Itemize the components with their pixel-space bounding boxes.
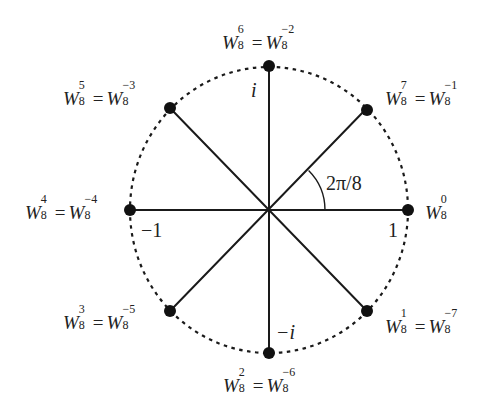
label-w5-base: W <box>63 88 79 109</box>
label-w2-eq-sup: −6 <box>282 366 295 378</box>
label-w4-equals: = <box>55 202 66 223</box>
label-w6-sup: 6 <box>238 23 244 35</box>
label-w7-equals: = <box>415 88 426 109</box>
label-w4-base: W <box>25 202 41 223</box>
label-w1-sub-2: 8 <box>444 323 450 335</box>
label-w3-base-2: W <box>107 312 123 333</box>
label-w3-equals: = <box>93 312 104 333</box>
label-w4: W48=W−48 <box>25 200 104 222</box>
angle-label: 2π/8 <box>326 173 362 193</box>
label-w0-sup: 0 <box>441 193 447 205</box>
label-w2-sup: 2 <box>239 366 245 378</box>
label-w1-sup: 1 <box>401 307 407 319</box>
label-w3-sub-2: 8 <box>122 319 128 331</box>
label-w7-base: W <box>385 88 401 109</box>
label-w1-base-2: W <box>429 316 445 337</box>
point-w0 <box>402 204 414 216</box>
label-w2-sub-2: 8 <box>282 382 288 394</box>
label-w6-base-2: W <box>266 32 282 53</box>
label-w3: W38=W−58 <box>63 310 142 332</box>
axis-label-i: i <box>251 80 257 100</box>
label-w7-base-2: W <box>429 88 445 109</box>
label-w1: W18=W−78 <box>385 314 464 336</box>
label-w6: W68=W−28 <box>222 30 301 52</box>
point-w2 <box>263 347 275 359</box>
label-w0-base: W <box>425 202 441 223</box>
label-w2-base: W <box>223 375 239 396</box>
label-w1-base: W <box>385 316 401 337</box>
label-w2-equals: = <box>253 375 264 396</box>
label-w7-sub: 8 <box>401 95 407 107</box>
label-w2-sub: 8 <box>239 382 245 394</box>
label-w6-eq-sup: −2 <box>281 23 294 35</box>
label-w6-sub-2: 8 <box>281 39 287 51</box>
label-w1-equals: = <box>415 316 426 337</box>
label-w4-sub-2: 8 <box>84 209 90 221</box>
label-w7-eq-sup: −1 <box>444 79 457 91</box>
axis-label-neg-one: −1 <box>141 220 162 240</box>
label-w1-sub: 8 <box>401 323 407 335</box>
label-w3-base: W <box>63 312 79 333</box>
axis-label-one: 1 <box>388 220 398 240</box>
point-w1 <box>361 305 373 317</box>
label-w4-sub: 8 <box>41 209 47 221</box>
label-w4-sup: 4 <box>41 193 47 205</box>
label-w2: W28=W−68 <box>223 373 302 395</box>
label-w7-sup: 7 <box>401 79 407 91</box>
label-w0: W08 <box>425 200 453 222</box>
label-w0-sub: 8 <box>441 209 447 221</box>
label-w6-equals: = <box>252 32 263 53</box>
label-w5: W58=W−38 <box>63 86 142 108</box>
label-w3-sup: 3 <box>79 303 85 315</box>
label-w5-equals: = <box>93 88 104 109</box>
label-w5-sub: 8 <box>79 95 85 107</box>
label-w5-eq-sup: −3 <box>122 79 135 91</box>
label-w3-sub: 8 <box>79 319 85 331</box>
label-w1-eq-sup: −7 <box>444 307 457 319</box>
label-w4-base-2: W <box>69 202 85 223</box>
label-w7: W78=W−18 <box>385 86 464 108</box>
angle-arc <box>309 170 325 210</box>
label-w4-eq-sup: −4 <box>84 193 97 205</box>
label-w6-sub: 8 <box>238 39 244 51</box>
label-w5-base-2: W <box>107 88 123 109</box>
label-w6-base: W <box>222 32 238 53</box>
label-w5-sup: 5 <box>79 79 85 91</box>
axis-label-neg-i: −i <box>276 322 295 342</box>
label-w7-sub-2: 8 <box>444 95 450 107</box>
point-w5 <box>164 102 176 114</box>
point-w7 <box>361 104 373 116</box>
label-w2-base-2: W <box>267 375 283 396</box>
point-w3 <box>164 305 176 317</box>
point-w4 <box>124 204 136 216</box>
label-w3-eq-sup: −5 <box>122 303 135 315</box>
label-w5-sub-2: 8 <box>122 95 128 107</box>
point-w6 <box>263 60 275 72</box>
